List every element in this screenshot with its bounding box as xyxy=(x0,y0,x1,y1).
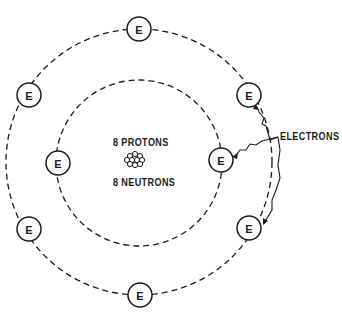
svg-text:E: E xyxy=(245,223,252,235)
electron-inner-left: E xyxy=(46,151,70,175)
callout-lines xyxy=(232,105,280,224)
electron-outer-upper-left: E xyxy=(17,83,41,107)
electron-outer-lower-right: E xyxy=(237,216,261,240)
svg-text:E: E xyxy=(217,155,224,167)
electron-outer-top: E xyxy=(127,17,151,41)
electron-outer-bottom: E xyxy=(128,283,152,307)
svg-text:E: E xyxy=(135,24,142,36)
svg-text:E: E xyxy=(25,90,32,102)
svg-text:E: E xyxy=(136,290,143,302)
electron-outer-lower-left: E xyxy=(17,217,41,241)
nucleus-icon xyxy=(124,151,144,167)
electrons-callout-label: ELECTRONS xyxy=(280,130,339,142)
oxygen-atom-diagram: E E E E E E E E xyxy=(0,0,342,317)
protons-label: 8 PROTONS xyxy=(113,136,169,148)
svg-text:E: E xyxy=(54,158,61,170)
neutrons-label: 8 NEUTRONS xyxy=(113,176,175,188)
svg-text:E: E xyxy=(25,224,32,236)
electron-inner-right: E xyxy=(209,148,233,172)
electron-outer-upper-right: E xyxy=(237,83,261,107)
svg-text:E: E xyxy=(245,90,252,102)
